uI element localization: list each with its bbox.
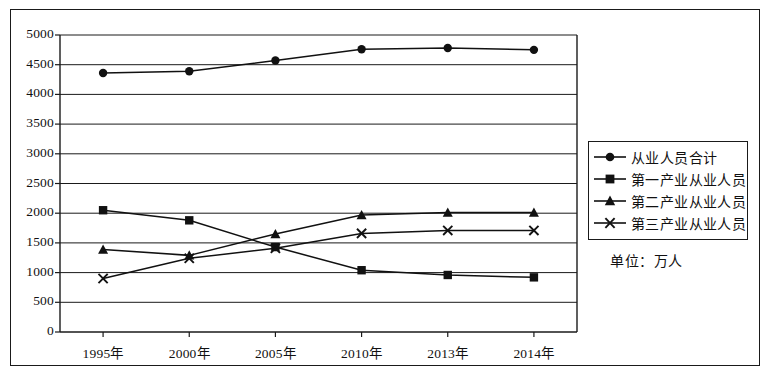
- y-axis-tick-label: 2500: [0, 175, 54, 191]
- y-axis-tick-label: 500: [0, 293, 54, 309]
- x-axis-tick-label: 2014年: [489, 342, 579, 362]
- legend-label-secondary: 第二产业从业人员: [631, 191, 746, 211]
- data-point-marker: [99, 69, 107, 77]
- data-point-marker: [530, 273, 538, 281]
- data-point-marker: [444, 44, 452, 52]
- legend-label-primary: 第一产业从业人员: [631, 169, 746, 189]
- x-axis-tick-label: 2010年: [317, 342, 407, 362]
- data-point-marker: [357, 45, 365, 53]
- series-line-2: [103, 213, 534, 256]
- chart-figure: 5000450040003500300025002000150010005000…: [0, 0, 768, 377]
- series-line-0: [103, 48, 534, 73]
- y-axis-tick-label: 3500: [0, 115, 54, 131]
- data-point-marker: [99, 206, 107, 214]
- x-axis-tick-label: 1995年: [58, 342, 148, 362]
- circle-marker-icon: [593, 147, 627, 167]
- square-marker-icon: [593, 169, 627, 189]
- y-axis-tick-label: 5000: [0, 26, 54, 42]
- triangle-marker-icon: [593, 191, 627, 211]
- legend-item-secondary: 第二产业从业人员: [593, 190, 741, 212]
- legend-item-tertiary: 第三产业从业人员: [593, 212, 741, 234]
- legend-label-tertiary: 第三产业从业人员: [631, 213, 746, 233]
- y-axis-tick-label: 1000: [0, 264, 54, 280]
- data-point-marker: [185, 67, 193, 75]
- data-point-marker: [185, 216, 193, 224]
- legend-item-primary: 第一产业从业人员: [593, 168, 741, 190]
- x-axis-tick-label: 2005年: [230, 342, 320, 362]
- y-axis-tick-label: 2000: [0, 204, 54, 220]
- y-axis-tick-label: 4000: [0, 85, 54, 101]
- data-point-marker: [444, 271, 452, 279]
- x-axis-tick-label: 2013年: [403, 342, 493, 362]
- x-axis-tick-label: 2000年: [144, 342, 234, 362]
- y-axis-tick-label: 4500: [0, 56, 54, 72]
- legend-item-total: 从业人员合计: [593, 146, 741, 168]
- x-marker-icon: [593, 213, 627, 233]
- series-line-1: [103, 210, 534, 277]
- chart-legend: 从业人员合计 第一产业从业人员 第二产业从业人员 第三产业从业人员: [588, 141, 748, 240]
- data-point-marker: [530, 46, 538, 54]
- data-point-marker: [271, 56, 279, 64]
- unit-annotation: 单位：万人: [610, 250, 683, 270]
- legend-label-total: 从业人员合计: [631, 147, 717, 167]
- y-axis-tick-label: 0: [0, 323, 54, 339]
- y-axis-tick-label: 1500: [0, 234, 54, 250]
- y-axis-tick-label: 3000: [0, 145, 54, 161]
- data-point-marker: [357, 266, 365, 274]
